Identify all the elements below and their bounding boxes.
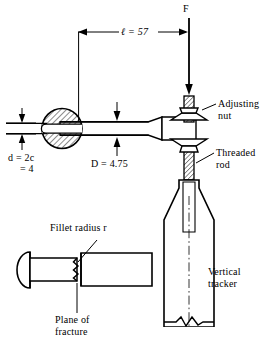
vertical-tracker-label-line2: tracker	[208, 278, 237, 289]
vertical-tracker-slot	[183, 182, 195, 232]
length-dim-arrow-right	[179, 29, 188, 36]
small-diameter-label-line1: d = 2c	[8, 152, 34, 163]
threaded-rod-label-line1: Threaded	[216, 147, 255, 158]
adjusting-nut-upper-flange	[180, 108, 198, 113]
plane-of-fracture-label-line1: Plane of	[55, 314, 90, 325]
adjusting-nut-label-line2: nut	[218, 110, 231, 121]
adjusting-nut-lower-flange	[180, 146, 198, 152]
plane-of-fracture-label-line2: fracture	[55, 326, 88, 337]
threaded-rod-label-line2: rod	[216, 159, 230, 170]
fractured-bolt-detail	[17, 240, 152, 313]
length-dim-arrow-left	[78, 29, 87, 36]
bolt-section-band-cap	[41, 124, 46, 133]
large-dia-arrow-upper-head	[114, 111, 121, 121]
figure-drawing	[0, 0, 275, 348]
leader-threaded-rod	[196, 153, 214, 163]
small-dia-arrow-lower-head	[19, 134, 25, 143]
adjusting-nut-upper-cone	[171, 113, 207, 120]
small-diameter-label-line2: = 4	[20, 163, 34, 174]
force-label: F	[183, 3, 189, 14]
engineering-figure: F ℓ = 57 d = 2c = 4 D = 4.75 Adjusting n…	[0, 0, 275, 348]
vertical-tracker-break-mask	[163, 327, 215, 348]
small-dia-arrow-upper-head	[19, 114, 25, 123]
leader-adjusting-nut	[202, 104, 216, 110]
horizontal-bolt-specimen	[6, 109, 196, 149]
adjusting-nut-lower-cone	[171, 139, 207, 146]
bolt-left-stub-fill	[6, 123, 46, 134]
bolt-detail-left-shank	[30, 258, 77, 281]
large-diameter-label: D = 4.75	[91, 158, 128, 169]
vertical-tracker-label-line1: Vertical	[208, 266, 241, 277]
adjusting-nut-label-line1: Adjusting	[218, 98, 259, 109]
large-dia-arrow-lower-head	[114, 137, 121, 147]
bolt-section-band-fill	[42, 124, 82, 133]
bolt-detail-right-shank	[81, 253, 152, 286]
fillet-radius-label: Fillet radius r	[50, 222, 107, 233]
bolt-detail-head	[17, 252, 30, 288]
length-dimension-label: ℓ = 57	[121, 26, 148, 37]
force-arrow-head	[185, 84, 193, 95]
length-dimension-group	[78, 29, 188, 124]
force-arrow-group	[185, 18, 193, 95]
vertical-tracker-group	[163, 180, 215, 348]
